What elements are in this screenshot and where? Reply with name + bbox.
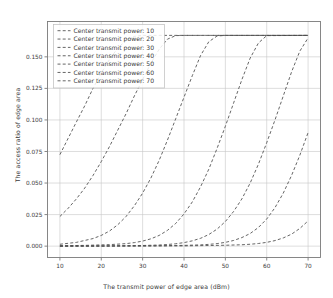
y-tick-label: 0.050 (26, 180, 43, 186)
legend-label-2: Center transmit power: 20 (74, 35, 155, 43)
legend-label-4: Center transmit power: 40 (74, 52, 155, 60)
x-tick-label: 20 (98, 263, 106, 269)
y-axis-label: The access ratio of edge area (14, 20, 21, 250)
legend[interactable]: Center transmit power: 10Center transmit… (54, 25, 165, 88)
y-tick-label: 0.125 (26, 85, 43, 91)
y-tick-label: 0.100 (26, 117, 43, 123)
y-tick-label: 0.000 (26, 243, 43, 249)
legend-label-5: Center transmit power: 50 (74, 60, 155, 68)
legend-label-7: Center transmit power: 70 (74, 77, 155, 85)
y-tick-label: 0.150 (26, 54, 43, 60)
y-tick-label: 0.025 (26, 212, 43, 218)
x-tick-label: 70 (304, 263, 312, 269)
x-tick-label: 50 (222, 263, 230, 269)
legend-label-3: Center transmit power: 30 (74, 44, 155, 52)
x-tick-label: 60 (263, 263, 271, 269)
figure-canvas: 102030405060700.0000.0250.0500.0750.1000… (0, 0, 333, 298)
chart-svg: 102030405060700.0000.0250.0500.0750.1000… (0, 0, 333, 298)
x-tick-label: 10 (56, 263, 64, 269)
legend-label-1: Center transmit power: 10 (74, 27, 155, 35)
x-tick-label: 30 (139, 263, 147, 269)
legend-label-6: Center transmit power: 60 (74, 69, 155, 77)
y-tick-label: 0.075 (26, 149, 43, 155)
x-axis-label: The transmit power of edge area (dBm) (0, 283, 333, 290)
x-tick-label: 40 (180, 263, 188, 269)
